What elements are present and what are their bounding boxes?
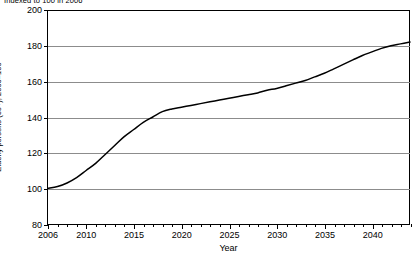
x-axis-tick-major-2015	[134, 224, 135, 229]
x-axis-tick-major-2035	[325, 224, 326, 229]
x-axis-tick-label-2025: 2025	[219, 230, 239, 240]
x-axis-tick-minor-2026	[239, 224, 240, 227]
y-axis-tick-label-80: 80	[32, 220, 42, 230]
x-axis-tick-minor-2012	[105, 224, 106, 227]
x-axis-tick-minor-2042	[392, 224, 393, 227]
x-axis-tick-major-2040	[373, 224, 374, 229]
x-axis-tick-minor-2011	[96, 224, 97, 227]
x-axis-tick-major-2030	[277, 224, 278, 229]
x-axis-tick-minor-2019	[172, 224, 173, 227]
x-axis-tick-minor-2021	[191, 224, 192, 227]
x-axis-tick-minor-2036	[335, 224, 336, 227]
x-axis-tick-minor-2041	[382, 224, 383, 227]
x-axis-tick-minor-2031	[287, 224, 288, 227]
y-axis-tick-label-100: 100	[27, 184, 42, 194]
series-line-elderly-index	[48, 42, 410, 188]
x-axis-tick-label-2035: 2035	[315, 230, 335, 240]
x-axis-tick-minor-2027	[249, 224, 250, 227]
x-axis-tick-label-2020: 2020	[172, 230, 192, 240]
x-axis-tick-label-2040: 2040	[363, 230, 383, 240]
x-axis-tick-major-2006	[48, 224, 49, 229]
x-axis-tick-minor-2008	[67, 224, 68, 227]
y-axis-tick-label-120: 120	[27, 148, 42, 158]
x-axis-tick-minor-2029	[268, 224, 269, 227]
x-axis-tick-minor-2043	[401, 224, 402, 227]
x-axis-tick-label-2010: 2010	[76, 230, 96, 240]
x-axis-tick-minor-2023	[210, 224, 211, 227]
x-axis-tick-minor-2033	[306, 224, 307, 227]
x-axis-tick-minor-2009	[77, 224, 78, 227]
y-axis-tick-label-180: 180	[27, 41, 42, 51]
x-axis-tick-minor-2018	[163, 224, 164, 227]
x-axis-tick-label-2015: 2015	[124, 230, 144, 240]
x-axis-tick-major-2020	[182, 224, 183, 229]
x-axis-tick-minor-2017	[153, 224, 154, 227]
series-line-group	[48, 10, 410, 224]
x-axis-tick-minor-2032	[296, 224, 297, 227]
x-axis-tick-minor-2038	[354, 224, 355, 227]
x-axis-tick-minor-2039	[363, 224, 364, 227]
x-axis-tick-label-2006: 2006	[38, 230, 58, 240]
x-axis-tick-minor-2022	[201, 224, 202, 227]
x-axis-tick-minor-2034	[315, 224, 316, 227]
x-axis-tick-label-2030: 2030	[267, 230, 287, 240]
x-axis-tick-minor-2014	[124, 224, 125, 227]
x-axis-tick-minor-2024	[220, 224, 221, 227]
x-axis-title: Year	[47, 243, 410, 253]
x-axis-tick-major-2025	[230, 224, 231, 229]
y-axis-tick-label-160: 160	[27, 77, 42, 87]
x-axis-tick-minor-2037	[344, 224, 345, 227]
x-axis-tick-minor-2028	[258, 224, 259, 227]
x-axis-tick-major-2010	[86, 224, 87, 229]
x-axis-tick-minor-2016	[144, 224, 145, 227]
x-axis-tick-minor-2013	[115, 224, 116, 227]
x-axis-tick-minor-2007	[58, 224, 59, 227]
y-axis-title: Elderly persons (60+), 2006=100	[0, 62, 3, 171]
x-axis-tick-minor-2044	[411, 224, 412, 227]
chart-subtitle: Indexed to 100 in 2006	[4, 0, 83, 5]
chart-container: Indexed to 100 in 2006 80100120140160180…	[0, 0, 418, 261]
y-axis-tick-label-200: 200	[27, 5, 42, 15]
y-axis-tick-label-140: 140	[27, 113, 42, 123]
plot-area: 80100120140160180200 2006201020152020202…	[47, 10, 410, 225]
